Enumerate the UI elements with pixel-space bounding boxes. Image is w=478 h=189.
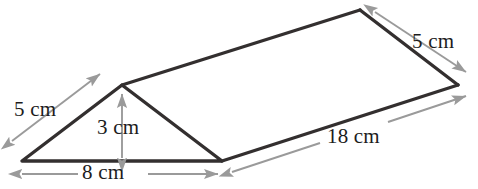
- dimension-label-height: 3 cm: [97, 117, 139, 138]
- dimension-arrow-length-upper: [388, 96, 466, 122]
- dimension-arrows: [12, 12, 466, 174]
- bottom-length-edge: [222, 85, 458, 161]
- dimension-label-slant-left: 5 cm: [14, 99, 56, 120]
- triangular-prism-figure: 5 cm 3 cm 8 cm 5 cm 18 cm: [0, 0, 478, 189]
- dimension-label-length: 18 cm: [327, 126, 380, 147]
- top-ridge-edge: [122, 10, 360, 85]
- dimension-arrow-length-lower: [232, 143, 320, 172]
- dimension-label-slant-right: 5 cm: [412, 31, 454, 52]
- prism-drawing: [0, 0, 478, 189]
- dimension-label-base: 8 cm: [82, 162, 124, 183]
- prism-solid-edges: [22, 10, 458, 161]
